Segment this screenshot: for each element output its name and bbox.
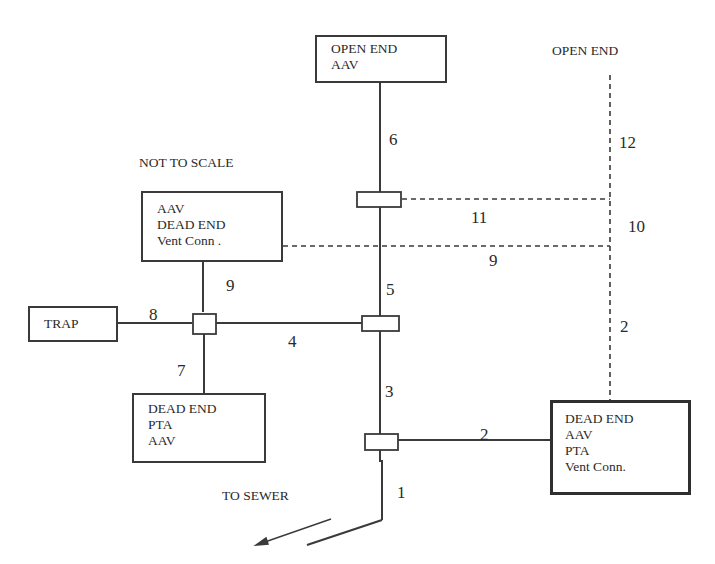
box-top-open-end: OPEN END AAV — [315, 35, 447, 83]
box-line: AAV — [565, 427, 688, 443]
fitting-upper — [357, 192, 401, 207]
segment-label-3: 3 — [385, 383, 394, 400]
box-left-vent: AAV DEAD END Vent Conn . — [141, 191, 283, 262]
fitting-lower — [365, 434, 398, 450]
segment-label-1: 1 — [397, 484, 406, 501]
box-line: PTA — [148, 417, 264, 433]
box-line: AAV — [148, 433, 264, 449]
fitting-left — [193, 314, 216, 334]
segment-label-10: 10 — [628, 218, 645, 235]
box-line: PTA — [565, 443, 688, 459]
box-line: AAV — [157, 201, 281, 217]
fitting-middle — [362, 316, 399, 331]
box-line: Vent Conn . — [157, 233, 281, 249]
box-trap: TRAP — [28, 306, 118, 342]
plumbing-vent-diagram: OPEN END AAV AAV DEAD END Vent Conn . TR… — [0, 0, 715, 564]
to-sewer-label: TO SEWER — [222, 488, 289, 504]
segment-label-9-dashed: 9 — [489, 252, 498, 269]
segment-label-4: 4 — [288, 333, 297, 350]
box-line: DEAD END — [565, 411, 688, 427]
box-right-dead-end: DEAD END AAV PTA Vent Conn. — [550, 400, 691, 495]
box-line: Vent Conn. — [565, 459, 688, 475]
box-bottom-dead-end: DEAD END PTA AAV — [132, 393, 266, 463]
box-line: AAV — [331, 57, 445, 73]
not-to-scale-note: NOT TO SCALE — [139, 155, 234, 171]
segment-label-2-vertical: 2 — [620, 318, 629, 335]
box-line: TRAP — [44, 316, 116, 332]
segment-label-8: 8 — [149, 306, 158, 323]
open-end-label: OPEN END — [552, 43, 618, 59]
segment-label-11: 11 — [471, 209, 487, 226]
segment-label-7: 7 — [177, 362, 186, 379]
segment-label-2-horizontal: 2 — [480, 426, 489, 443]
box-line: DEAD END — [157, 217, 281, 233]
box-line: DEAD END — [148, 401, 264, 417]
segment-label-6: 6 — [389, 131, 398, 148]
segment-label-12: 12 — [619, 134, 636, 151]
box-line: OPEN END — [331, 41, 445, 57]
segment-label-5: 5 — [386, 281, 395, 298]
segment-label-9-vertical: 9 — [226, 277, 235, 294]
